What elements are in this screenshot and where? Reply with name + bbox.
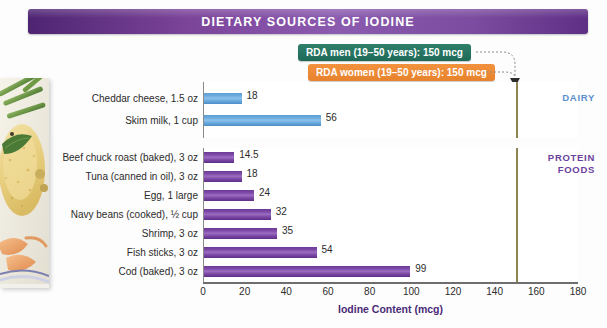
rda-reference-line-dairy bbox=[516, 82, 518, 138]
rda-reference-line-protein bbox=[516, 148, 518, 282]
x-tick-120: 120 bbox=[445, 286, 462, 297]
group-label-protein-line2: FOODS bbox=[558, 164, 595, 175]
protein-category-labels: Beef chuck roast (baked), 3 oz Tuna (can… bbox=[0, 148, 198, 282]
rda-women-label: RDA women (19–50 years): 150 mcg bbox=[316, 67, 487, 78]
bar-skim-milk bbox=[204, 115, 321, 126]
bar-value-fish-sticks: 54 bbox=[322, 244, 333, 255]
rda-men-callout: RDA men (19–50 years): 150 mcg bbox=[298, 44, 471, 61]
bar-value-shrimp: 35 bbox=[282, 225, 293, 236]
cat-label-skim-milk: Skim milk, 1 cup bbox=[125, 115, 198, 126]
x-tick-180: 180 bbox=[570, 286, 587, 297]
x-tick-140: 140 bbox=[486, 286, 503, 297]
bar-cheddar-cheese bbox=[204, 93, 242, 104]
chart-title-banner: DIETARY SOURCES OF IODINE bbox=[28, 9, 588, 34]
x-tick-80: 80 bbox=[364, 286, 375, 297]
bar-fish-sticks bbox=[204, 247, 317, 258]
bar-value-navy-beans: 32 bbox=[276, 206, 287, 217]
x-tick-160: 160 bbox=[528, 286, 545, 297]
group-label-protein-foods: PROTEIN FOODS bbox=[548, 152, 595, 176]
group-label-dairy: DAIRY bbox=[562, 92, 595, 104]
cat-label-cod: Cod (baked), 3 oz bbox=[119, 266, 199, 277]
cat-label-cheddar-cheese: Cheddar cheese, 1.5 oz bbox=[92, 93, 198, 104]
cat-label-tuna: Tuna (canned in oil), 3 oz bbox=[86, 171, 198, 182]
cat-label-fish-sticks: Fish sticks, 3 oz bbox=[127, 247, 198, 258]
bar-tuna bbox=[204, 171, 242, 182]
bar-navy-beans bbox=[204, 209, 271, 220]
bar-egg bbox=[204, 190, 254, 201]
bar-shrimp bbox=[204, 228, 277, 239]
x-tick-20: 20 bbox=[239, 286, 250, 297]
panel-dairy: 18 56 bbox=[203, 82, 578, 138]
bar-cod bbox=[204, 266, 410, 277]
bar-value-cod: 99 bbox=[415, 263, 426, 274]
panel-protein-foods: 14.5 18 24 32 35 54 99 bbox=[203, 148, 578, 282]
x-axis-title: Iodine Content (mcg) bbox=[203, 303, 578, 315]
chart-plot-area: 18 56 14.5 18 24 32 35 54 bbox=[203, 82, 578, 282]
group-label-protein-line1: PROTEIN bbox=[548, 152, 595, 163]
bar-value-cheddar-cheese: 18 bbox=[247, 90, 258, 101]
x-tick-100: 100 bbox=[403, 286, 420, 297]
cat-label-shrimp: Shrimp, 3 oz bbox=[142, 228, 198, 239]
x-tick-0: 0 bbox=[200, 286, 206, 297]
bar-value-tuna: 18 bbox=[247, 168, 258, 179]
rda-men-label: RDA men (19–50 years): 150 mcg bbox=[306, 47, 463, 58]
x-axis-line bbox=[203, 282, 578, 284]
bar-value-egg: 24 bbox=[259, 187, 270, 198]
cat-label-egg: Egg, 1 large bbox=[144, 190, 198, 201]
bar-beef-chuck-roast bbox=[204, 152, 234, 163]
bar-value-skim-milk: 56 bbox=[326, 112, 337, 123]
page-title: DIETARY SOURCES OF IODINE bbox=[201, 15, 414, 29]
cat-label-navy-beans: Navy beans (cooked), ½ cup bbox=[71, 209, 198, 220]
x-tick-60: 60 bbox=[322, 286, 333, 297]
dairy-category-labels: Cheddar cheese, 1.5 oz Skim milk, 1 cup bbox=[0, 82, 198, 138]
cat-label-beef-chuck-roast: Beef chuck roast (baked), 3 oz bbox=[62, 152, 198, 163]
x-tick-40: 40 bbox=[281, 286, 292, 297]
bar-value-beef-chuck-roast: 14.5 bbox=[239, 149, 258, 160]
rda-women-callout: RDA women (19–50 years): 150 mcg bbox=[308, 64, 495, 81]
